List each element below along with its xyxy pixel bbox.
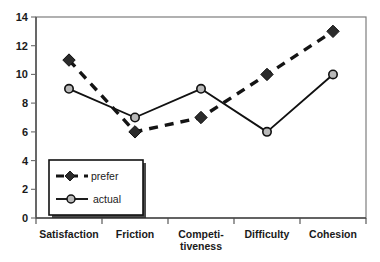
line-chart: 14 12 10 8 6 4 2 0 <box>0 0 380 262</box>
legend-label-prefer: prefer <box>91 170 118 182</box>
legend-box <box>49 160 143 215</box>
data-point-actual-1 <box>131 113 139 121</box>
plot-area <box>0 0 380 262</box>
data-point-prefer-4 <box>327 25 339 37</box>
x-axis-ticks <box>36 218 366 224</box>
y-axis-ticks <box>31 17 36 218</box>
data-point-actual-2 <box>197 85 205 93</box>
data-point-actual-3 <box>263 128 271 136</box>
data-point-actual-4 <box>329 70 337 78</box>
data-point-prefer-3 <box>261 68 273 80</box>
series-actual <box>65 70 337 136</box>
data-point-prefer-1 <box>129 126 141 138</box>
data-point-actual-0 <box>65 85 73 93</box>
prefer-markers <box>63 25 339 138</box>
x-category-label-cohesion: Cohesion <box>288 228 378 240</box>
actual-markers <box>65 70 337 136</box>
data-point-prefer-2 <box>195 111 207 123</box>
legend-label-actual: actual <box>93 193 121 205</box>
series-prefer <box>63 25 339 138</box>
chart-legend <box>49 160 146 218</box>
